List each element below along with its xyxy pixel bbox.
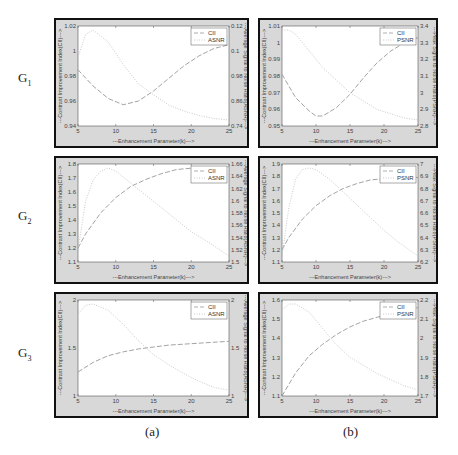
svg-text:3: 3	[420, 90, 424, 96]
svg-text:1.4: 1.4	[68, 217, 77, 223]
svg-text:1.5: 1.5	[231, 259, 240, 265]
svg-text:0.96: 0.96	[268, 106, 280, 112]
svg-text:0.1: 0.1	[231, 48, 240, 54]
svg-text:0.98: 0.98	[64, 73, 76, 79]
svg-text:1.52: 1.52	[231, 247, 243, 253]
svg-text:---Average Signal to Noise Rat: ---Average Signal to Noise Ratio(ASNR)--…	[243, 23, 247, 129]
svg-text:---Enhancement Parameter(k)---: ---Enhancement Parameter(k)--->	[309, 408, 391, 414]
svg-text:---Enhancement Parameter(k)---: ---Enhancement Parameter(k)--->	[113, 408, 195, 414]
svg-text:---Enhancement Parameter(k)---: ---Enhancement Parameter(k)--->	[309, 274, 391, 280]
svg-text:1.7: 1.7	[272, 186, 281, 192]
svg-text:1.6: 1.6	[68, 189, 77, 195]
svg-text:3.4: 3.4	[420, 23, 429, 29]
svg-text:1.56: 1.56	[231, 222, 243, 228]
svg-text:PSNR: PSNR	[397, 311, 414, 317]
svg-text:1.64: 1.64	[231, 173, 243, 179]
svg-text:5: 5	[280, 128, 284, 134]
svg-text:15: 15	[150, 128, 157, 134]
svg-text:ASNR: ASNR	[208, 311, 225, 317]
svg-text:1.9: 1.9	[420, 355, 429, 361]
svg-text:20: 20	[188, 398, 195, 404]
svg-text:0.98: 0.98	[268, 73, 280, 79]
svg-text:1.8: 1.8	[420, 374, 429, 380]
svg-text:1.4: 1.4	[272, 222, 281, 228]
svg-text:1.3: 1.3	[272, 235, 281, 241]
svg-text:2: 2	[73, 297, 77, 303]
svg-text:CII: CII	[208, 304, 216, 310]
svg-text:1.62: 1.62	[231, 186, 243, 192]
svg-text:1.5: 1.5	[272, 316, 281, 322]
svg-text:7: 7	[420, 161, 424, 167]
svg-text:1.7: 1.7	[68, 175, 77, 181]
svg-text:6.5: 6.5	[420, 222, 429, 228]
svg-text:1.01: 1.01	[268, 23, 280, 29]
svg-text:1.2: 1.2	[272, 374, 281, 380]
chart-panel-g1b: 5101520250.950.960.970.980.9911.012.82.9…	[258, 18, 438, 148]
svg-text:0.96: 0.96	[64, 98, 76, 104]
svg-text:1.1: 1.1	[272, 259, 281, 265]
svg-text:0.97: 0.97	[268, 90, 280, 96]
svg-text:---Peak Signal to Noise Ratio(: ---Peak Signal to Noise Ratio(PSNR)--->	[432, 299, 436, 398]
svg-text:0.74: 0.74	[231, 123, 243, 129]
svg-text:0.86: 0.86	[231, 98, 243, 104]
svg-text:---Contrast Improvement Index(: ---Contrast Improvement Index(CII)--->	[57, 301, 63, 395]
svg-text:15: 15	[150, 398, 157, 404]
svg-text:6.8: 6.8	[420, 186, 429, 192]
svg-text:5: 5	[280, 398, 284, 404]
svg-text:5: 5	[280, 264, 284, 270]
svg-text:15: 15	[347, 398, 354, 404]
caption-a: (a)	[145, 424, 159, 440]
svg-text:6.6: 6.6	[420, 210, 429, 216]
chart-panel-g2a: 5101520251.11.21.31.41.51.61.71.81.51.52…	[54, 156, 249, 284]
svg-text:---Enhancement Parameter(k)---: ---Enhancement Parameter(k)--->	[113, 274, 195, 280]
svg-text:---Contrast Improvement Index(: ---Contrast Improvement Index(CII)--->	[261, 166, 267, 260]
svg-text:---Enhancement Parameter(k)---: ---Enhancement Parameter(k)--->	[113, 138, 195, 144]
svg-text:1.9: 1.9	[272, 161, 281, 167]
svg-text:10: 10	[313, 128, 320, 134]
svg-text:3.1: 3.1	[420, 73, 429, 79]
svg-text:ASNR: ASNR	[208, 175, 225, 181]
svg-text:2: 2	[420, 335, 424, 341]
svg-text:CII: CII	[397, 30, 405, 36]
svg-text:1.4: 1.4	[272, 335, 281, 341]
svg-text:15: 15	[347, 264, 354, 270]
svg-text:---Enhancement Parameter(k)---: ---Enhancement Parameter(k)--->	[309, 138, 391, 144]
svg-text:20: 20	[381, 264, 388, 270]
svg-text:1: 1	[231, 393, 235, 399]
svg-text:1.8: 1.8	[68, 161, 77, 167]
svg-text:1: 1	[73, 48, 77, 54]
svg-text:6.2: 6.2	[420, 259, 429, 265]
svg-text:1.5: 1.5	[272, 210, 281, 216]
svg-text:15: 15	[150, 264, 157, 270]
svg-text:1.6: 1.6	[272, 297, 281, 303]
svg-text:10: 10	[313, 264, 320, 270]
svg-text:5: 5	[76, 398, 80, 404]
svg-text:15: 15	[347, 128, 354, 134]
svg-text:1.02: 1.02	[64, 23, 76, 29]
row-label-g3: G3	[18, 345, 31, 363]
svg-text:CII: CII	[208, 168, 216, 174]
svg-text:PSNR: PSNR	[397, 175, 414, 181]
svg-text:---Average Signal to Noise Rat: ---Average Signal to Noise Ratio(ASNR)--…	[243, 295, 247, 401]
svg-text:6.3: 6.3	[420, 247, 429, 253]
svg-text:1.6: 1.6	[272, 198, 281, 204]
svg-text:---Contrast Improvement Index(: ---Contrast Improvement Index(CII)--->	[57, 166, 63, 260]
chart-panel-g1a: 5101520250.940.960.9811.020.740.860.980.…	[54, 18, 249, 148]
svg-text:CII: CII	[208, 30, 216, 36]
svg-text:1.66: 1.66	[231, 161, 243, 167]
svg-text:---Contrast Improvement Index(: ---Contrast Improvement Index(CII)--->	[261, 301, 267, 395]
svg-text:---Peak Signal to Noise Ratio(: ---Peak Signal to Noise Ratio(PSNR)--->	[432, 27, 436, 126]
svg-text:PSNR: PSNR	[397, 37, 414, 43]
svg-text:20: 20	[381, 398, 388, 404]
svg-text:1.5: 1.5	[231, 345, 240, 351]
svg-text:1.1: 1.1	[272, 393, 281, 399]
svg-text:20: 20	[381, 128, 388, 134]
row-label-g1: G1	[18, 70, 31, 88]
svg-text:6.9: 6.9	[420, 173, 429, 179]
svg-text:---Contrast Improvement Index(: ---Contrast Improvement Index(CII)--->	[261, 29, 267, 123]
svg-text:1.2: 1.2	[68, 245, 77, 251]
svg-text:0.99: 0.99	[268, 56, 280, 62]
svg-text:1.6: 1.6	[231, 198, 240, 204]
chart-panel-g2b: 5101520251.11.21.31.41.51.61.71.81.96.26…	[258, 156, 438, 284]
svg-text:2.9: 2.9	[420, 106, 429, 112]
